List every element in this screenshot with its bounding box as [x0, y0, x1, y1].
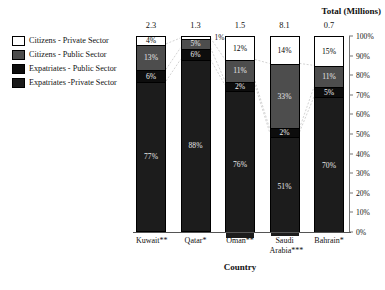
y-axis-tick: 50% [349, 130, 370, 139]
x-axis-title: Country [136, 262, 344, 272]
y-axis-tick: 40% [349, 149, 370, 158]
total-value: 0.7 [314, 20, 344, 34]
bar-segment-label: 14% [278, 47, 292, 55]
bar-segment[interactable]: 6% [182, 49, 210, 61]
bar-segment-label: 5% [190, 40, 200, 48]
y-axis-tick: 30% [349, 169, 370, 178]
bar-segment-label: 76% [233, 161, 247, 169]
y-axis-tick-mark [349, 36, 353, 37]
y-axis-tick: 100% [349, 32, 374, 41]
y-axis-tick: 20% [349, 188, 370, 197]
x-axis-tick-label: Oman** [225, 236, 255, 256]
bar-column[interactable]: 15%11%5%70% [314, 36, 344, 232]
y-axis-tick-label: 80% [356, 71, 370, 80]
y-axis-tick: 0% [349, 228, 366, 237]
y-axis-tick-label: 70% [356, 90, 370, 99]
y-axis-tick: 10% [349, 208, 370, 217]
y-axis-tick-label: 50% [356, 130, 370, 139]
bar-segment[interactable]: 77% [137, 82, 165, 231]
bar-column[interactable]: 12%11%2%76% [225, 36, 255, 232]
stacked-bar[interactable]: 1%5%6%88% [181, 36, 211, 232]
bar-segment[interactable]: 6% [137, 70, 165, 82]
y-axis-tick: 70% [349, 90, 370, 99]
legend-swatch-expatriates-private-icon [12, 78, 25, 88]
y-axis-tick-mark [349, 134, 353, 135]
total-value: 2.3 [136, 20, 166, 34]
legend-item-citizens-public: Citizens - Public Sector [12, 48, 140, 61]
x-axis-tick-label: Saudi Arabia*** [270, 236, 300, 256]
y-axis-tick: 80% [349, 71, 370, 80]
bar-segment-label: 51% [278, 183, 292, 191]
stacked-bar[interactable]: 14%33%2%51% [270, 36, 300, 232]
stacked-bar[interactable]: 15%11%5%70% [314, 36, 344, 232]
total-value: 1.3 [181, 20, 211, 34]
y-axis-tick-mark [349, 173, 353, 174]
bar-segment[interactable]: 51% [271, 137, 299, 236]
y-axis-tick-mark [349, 94, 353, 95]
bar-segment[interactable]: 76% [226, 91, 254, 238]
y-axis-tick-label: 40% [356, 149, 370, 158]
bar-segment-label: 6% [190, 51, 200, 59]
y-axis: 100%90%80%70%60%50%40%30%20%10%0% [349, 36, 385, 232]
totals-header: Total (Millions) [322, 6, 381, 16]
bar-segment[interactable]: 70% [315, 97, 343, 233]
y-axis-tick-label: 0% [356, 228, 366, 237]
legend-label-expatriates-public: Expatriates - Public Sector [29, 64, 117, 74]
legend-label-citizens-public: Citizens - Public Sector [29, 50, 107, 60]
y-axis-tick: 60% [349, 110, 370, 119]
bar-segment[interactable]: 11% [315, 66, 343, 87]
bar-segment-label: 33% [278, 93, 292, 101]
y-axis-tick-label: 30% [356, 169, 370, 178]
bar-segment-label: 6% [146, 73, 156, 81]
bar-segment[interactable]: 2% [226, 82, 254, 91]
bar-segment-label: 15% [322, 48, 336, 56]
x-axis-labels: Kuwait** Qatar* Oman** Saudi Arabia*** B… [136, 236, 344, 256]
totals-row: 2.3 1.3 1.5 8.1 0.7 [136, 20, 344, 34]
bar-segment[interactable]: 4% [137, 37, 165, 45]
bar-segment[interactable]: 2% [271, 128, 299, 137]
y-axis-tick-label: 60% [356, 110, 370, 119]
plot-area: 4%13%6%77%1%5%6%88%12%11%2%76%14%33%2%51… [136, 36, 344, 232]
x-axis-line [133, 232, 351, 233]
y-axis-tick-label: 100% [356, 32, 374, 41]
y-axis-tick-label: 20% [356, 188, 370, 197]
bar-segment-label: 5% [324, 89, 334, 97]
legend-item-citizens-private: Citizens - Private Sector [12, 34, 140, 47]
bar-column[interactable]: 14%33%2%51% [270, 36, 300, 232]
bar-segment[interactable]: 11% [226, 60, 254, 81]
y-axis-tick-label: 10% [356, 208, 370, 217]
bar-segment-label: 77% [144, 153, 158, 161]
bar-segment-label: 12% [233, 45, 247, 53]
legend-label-citizens-private: Citizens - Private Sector [29, 36, 109, 46]
legend-label-expatriates-private: Expatriates -Private Sector [29, 78, 117, 88]
bar-segment[interactable]: 5% [315, 87, 343, 97]
bar-segment-label: 2% [279, 129, 289, 137]
bar-segment[interactable]: 33% [271, 64, 299, 128]
bar-segment[interactable]: 5% [182, 39, 210, 49]
legend-swatch-expatriates-public-icon [12, 64, 25, 74]
bar-segment[interactable]: 13% [137, 45, 165, 70]
x-axis-tick-label: Kuwait** [136, 236, 166, 256]
bar-segment[interactable]: 14% [271, 37, 299, 64]
bar-segment-label: 2% [235, 83, 245, 91]
bar-column[interactable]: 1%5%6%88% [181, 36, 211, 232]
bar-segment[interactable]: 88% [182, 60, 210, 231]
bar-segment-label: 88% [189, 142, 203, 150]
bar-segment[interactable]: 12% [226, 37, 254, 60]
stacked-bar[interactable]: 12%11%2%76% [225, 36, 255, 232]
x-axis-tick-label: Qatar* [181, 236, 211, 256]
y-axis-tick-label: 90% [356, 51, 370, 60]
total-value: 1.5 [225, 20, 255, 34]
y-axis-tick-mark [349, 114, 353, 115]
x-axis-tick-label: Bahrain* [314, 236, 344, 256]
bar-column[interactable]: 4%13%6%77% [136, 36, 166, 232]
stacked-bar[interactable]: 4%13%6%77% [136, 36, 166, 232]
y-axis-tick-mark [349, 55, 353, 56]
legend-swatch-citizens-private-icon [12, 36, 25, 46]
y-axis-tick-mark [349, 75, 353, 76]
legend-item-expatriates-private: Expatriates -Private Sector [12, 76, 140, 89]
total-value: 8.1 [270, 20, 300, 34]
bar-segment[interactable]: 15% [315, 37, 343, 66]
y-axis-tick-mark [349, 212, 353, 213]
bar-segment-label: 11% [322, 73, 336, 81]
